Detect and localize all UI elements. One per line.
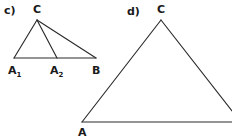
- panel-c: c) C A1 A2 B: [4, 3, 100, 79]
- figure-canvas: c) C A1 A2 B d) C A: [0, 0, 232, 139]
- geometry-figure: c) C A1 A2 B d) C A: [0, 0, 232, 139]
- vertex-label-a1: A1: [8, 64, 22, 79]
- vertex-label-b: B: [92, 64, 100, 77]
- segment-a1-c: [14, 20, 37, 58]
- vertex-label-a2-subscript: 2: [59, 71, 64, 79]
- panel-d: d) C A: [78, 3, 232, 139]
- segment-c-right-edge: [161, 20, 232, 111]
- segment-cevian-c-a2: [37, 20, 57, 58]
- vertex-label-a1-subscript: 1: [17, 71, 22, 79]
- vertex-label-a-panel-d: A: [78, 126, 87, 139]
- segment-c-b: [37, 20, 96, 58]
- vertex-label-c-panel-c: C: [33, 3, 41, 16]
- part-label-d: d): [127, 5, 140, 18]
- vertex-label-c-panel-d: C: [157, 3, 165, 16]
- part-label-c: c): [4, 4, 16, 17]
- vertex-label-a2: A2: [50, 64, 64, 79]
